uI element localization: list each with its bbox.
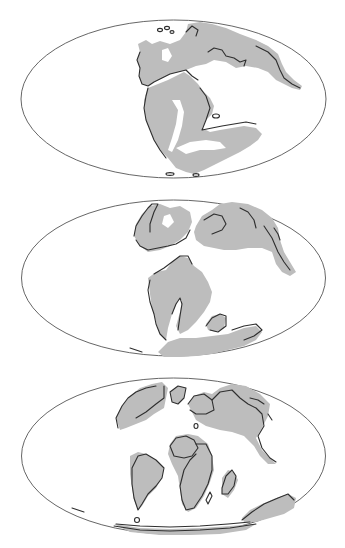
island-1b [165,26,170,29]
island-1f [213,114,220,118]
island-1a [158,28,163,31]
landmass-india-2 [206,314,226,332]
coastline-2l [130,348,142,352]
landmass-australia-3 [242,494,296,522]
landmass-eurasia-2 [194,202,296,276]
coastline-3m [72,508,84,512]
paleogeographic-figure [0,0,345,548]
coastline-3o [268,414,272,420]
landmass-north-america-2 [134,204,192,252]
island-1e [193,174,199,177]
island-1d [166,173,174,176]
map-panel-3 [22,378,326,535]
landmass-laurasia-1 [137,22,302,90]
map-panel-2 [22,200,326,357]
landmass-gondwana-1 [144,72,262,174]
landmass-antarctica-2 [158,326,262,357]
island-3b [194,424,198,429]
map-panel-1 [21,20,326,178]
island-3c [206,492,212,504]
island-1c [170,31,174,34]
island-3a [135,518,140,523]
